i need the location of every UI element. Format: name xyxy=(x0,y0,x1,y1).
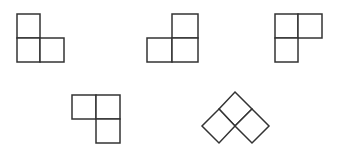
square-cell xyxy=(275,38,298,62)
square-cell xyxy=(17,38,40,62)
tromino-diagram xyxy=(0,0,341,146)
square-cell xyxy=(40,38,64,62)
square-cell xyxy=(17,14,40,38)
l-tromino-4 xyxy=(72,95,120,143)
l-tromino-5-rotated xyxy=(202,92,269,143)
square-cell xyxy=(72,95,96,119)
square-cell xyxy=(298,14,322,38)
square-cell xyxy=(96,95,120,119)
square-cell xyxy=(96,119,120,143)
square-cell xyxy=(172,38,198,62)
square-cell xyxy=(275,14,298,38)
square-cell xyxy=(172,14,198,38)
l-tromino-2 xyxy=(147,14,198,62)
diagram-svg xyxy=(0,0,341,146)
l-tromino-3 xyxy=(275,14,322,62)
l-tromino-1 xyxy=(17,14,64,62)
square-cell xyxy=(147,38,172,62)
